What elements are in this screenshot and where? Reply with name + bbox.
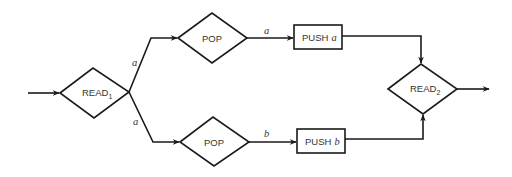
edge-push-a-read2 [342, 36, 421, 63]
pop-bottom-label: POP [204, 137, 224, 148]
pop-bottom-node[interactable]: POP [180, 117, 249, 166]
edge-read1-pop-top-label: a [132, 57, 137, 68]
pop-top-node[interactable]: POP [178, 13, 247, 63]
read2-label: READ2 [410, 83, 440, 96]
edge-push-b-read2 [345, 115, 423, 139]
read1-node[interactable]: READ1 [60, 68, 129, 118]
push-b-node[interactable]: PUSHb [297, 129, 345, 153]
pop-top-label: POP [202, 33, 222, 44]
read2-node[interactable]: READ2 [388, 64, 457, 114]
push-a-label: PUSHa [302, 32, 337, 43]
push-a-node[interactable]: PUSHa [294, 25, 342, 49]
pda-flowchart: READ1 a a POP a PUSHa POP b PUSHb READ2 [0, 0, 512, 177]
push-b-label: PUSHb [305, 136, 340, 147]
edge-read1-pop-bottom-label: a [133, 116, 138, 127]
edge-pop-top-push-a-label: a [264, 25, 269, 36]
edge-pop-bottom-push-b-label: b [264, 128, 269, 139]
read1-label: READ1 [82, 87, 112, 100]
